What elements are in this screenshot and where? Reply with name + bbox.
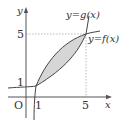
curve-g (34, 16, 89, 120)
y-tick-5: 5 (17, 28, 24, 41)
y-axis-arrow-icon (24, 7, 28, 13)
graph-canvas: y x O 1 5 1 5 y=g(x) y=f(x) (0, 0, 128, 126)
y-axis-label: y (16, 5, 23, 16)
x-tick-1: 1 (35, 99, 42, 112)
origin-label: O (14, 99, 23, 112)
x-axis-label: x (105, 99, 111, 110)
curve-f-label: y=f(x) (87, 33, 119, 44)
curve-g-label: y=g(x) (65, 9, 100, 20)
y-tick-1: 1 (17, 76, 24, 89)
x-tick-5: 5 (82, 99, 89, 112)
shaded-region (36, 34, 86, 86)
